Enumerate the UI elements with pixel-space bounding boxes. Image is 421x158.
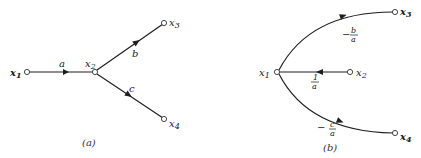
label-b-x4: x4 [399,131,412,144]
node-a-x1 [24,69,29,74]
signal-flow-graphs: x1 x2 x3 x4 a b c (a) x1 x2 x3 x4 1 [0,0,421,158]
label-b-x1: x1 [259,67,270,80]
label-a-x2: x2 [85,58,96,71]
node-a-x3 [161,20,166,25]
label-a-x1: x1 [9,67,22,80]
diagram-a: x1 x2 x3 x4 a b c (a) [9,17,180,148]
edge-b-x3-x1 [279,12,393,70]
gain-minus-c-over-a: − c a [317,120,336,138]
caption-b: (b) [323,142,337,153]
gain-one-over-a: 1 a [311,73,319,91]
edge-b-x4-x1 [279,74,393,133]
gain-b: b [132,48,138,59]
node-b-x2 [347,69,352,74]
node-b-x3 [392,9,397,14]
diagram-b: x1 x2 x3 x4 1 a − b a − c a (b) [259,6,412,153]
edge-a-x3-x2 [97,24,163,70]
svg-text:−: − [317,122,325,133]
label-a-x4: x4 [169,118,180,131]
svg-text:−: − [342,29,350,40]
gain-a: a [59,58,65,69]
label-b-x2: x2 [356,67,367,80]
label-b-x3: x3 [399,6,412,19]
node-b-x1 [274,69,279,74]
label-a-x3: x3 [169,17,180,30]
svg-text:a: a [330,129,335,138]
gain-c: c [129,83,135,94]
node-a-x4 [161,116,166,121]
svg-text:1: 1 [313,73,318,82]
gain-minus-b-over-a: − b a [342,26,358,44]
svg-text:a: a [351,35,356,44]
svg-text:c: c [330,120,335,129]
svg-text:b: b [351,26,356,35]
caption-a: (a) [82,137,96,148]
node-b-x4 [392,130,397,135]
arrow-right-icon [63,69,69,75]
svg-text:a: a [312,82,317,91]
